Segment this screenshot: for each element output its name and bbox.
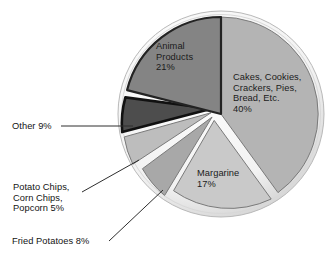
slice-label-cakes: Cakes, Cookies, Crackers, Pies, Bread, E… xyxy=(233,72,301,114)
slice-label-animal-products: Animal Products 21% xyxy=(156,41,193,73)
slice-label-potato-chips: Potato Chips, Corn Chips, Popcorn 5% xyxy=(13,182,69,214)
slice-label-fried-potatoes: Fried Potatoes 8% xyxy=(12,236,89,247)
pie-chart: Animal Products 21% Cakes, Cookies, Crac… xyxy=(0,0,334,262)
leader-line-potato-chips xyxy=(82,160,139,192)
slice-label-margarine: Margarine 17% xyxy=(197,168,239,189)
slice-label-other: Other 9% xyxy=(12,121,52,132)
leader-line-fried-potatoes xyxy=(109,190,163,241)
